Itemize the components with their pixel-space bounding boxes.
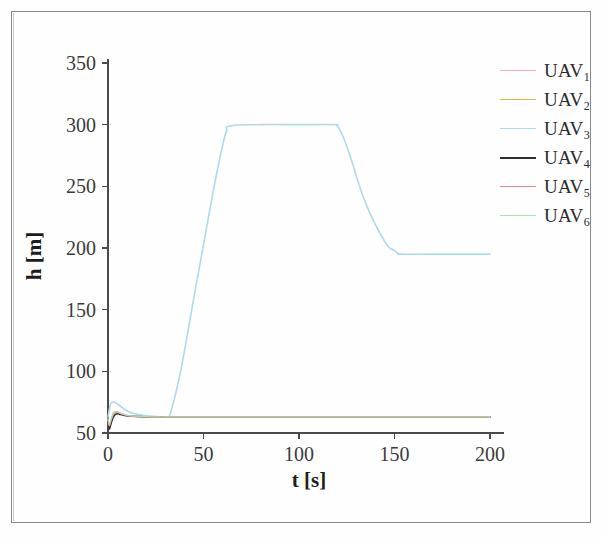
data-series-lines — [108, 125, 490, 429]
legend-item-uav-1[interactable]: UAV1 — [500, 56, 596, 85]
series-line-uav-1 — [108, 413, 490, 428]
legend-item-uav-3[interactable]: UAV3 — [500, 114, 596, 143]
legend-label-text: UAV — [544, 60, 583, 81]
legend-color-swatch — [500, 186, 536, 187]
legend-label-text: UAV — [544, 205, 583, 226]
y-tick-label: 200 — [66, 237, 96, 260]
y-tick-label: 300 — [66, 113, 96, 136]
x-axis-title: t [s] — [292, 468, 326, 493]
legend-label-text: UAV — [544, 147, 583, 168]
legend-item-label: UAV5 — [544, 176, 590, 198]
legend-color-swatch — [500, 215, 536, 216]
x-tick-label: 50 — [194, 443, 214, 466]
legend-label-subscript: 2 — [584, 99, 590, 113]
x-tick-label: 100 — [284, 443, 314, 466]
legend-label-text: UAV — [544, 89, 583, 110]
x-tick-label: 0 — [103, 443, 113, 466]
altitude-vs-time-chart: 50100150200250300350050100150200 t [s] h… — [0, 0, 602, 539]
axis-ticks — [102, 63, 490, 439]
y-tick-label: 50 — [76, 422, 96, 445]
series-line-uav-4 — [108, 414, 490, 429]
x-tick-label: 150 — [380, 443, 410, 466]
legend-item-label: UAV4 — [544, 147, 590, 169]
legend-item-uav-5[interactable]: UAV5 — [500, 172, 596, 201]
legend-item-label: UAV2 — [544, 89, 590, 111]
series-line-uav-2 — [108, 413, 490, 427]
y-tick-label: 350 — [66, 52, 96, 75]
legend-item-label: UAV3 — [544, 118, 590, 140]
legend-item-uav-2[interactable]: UAV2 — [500, 85, 596, 114]
legend-label-subscript: 1 — [584, 70, 590, 84]
legend-label-subscript: 5 — [584, 186, 590, 200]
scanned-page: 50100150200250300350050100150200 t [s] h… — [0, 0, 602, 539]
chart-legend: UAV1UAV2UAV3UAV4UAV5UAV6 — [500, 56, 596, 230]
legend-label-text: UAV — [544, 176, 583, 197]
y-tick-label: 150 — [66, 298, 96, 321]
legend-color-swatch — [500, 70, 536, 71]
legend-label-subscript: 4 — [584, 157, 590, 171]
y-axis-title: h [m] — [22, 232, 47, 280]
y-tick-label: 250 — [66, 175, 96, 198]
x-tick-label: 200 — [475, 443, 505, 466]
legend-item-label: UAV6 — [544, 205, 590, 227]
y-tick-label: 100 — [66, 360, 96, 383]
legend-item-label: UAV1 — [544, 60, 590, 82]
legend-item-uav-6[interactable]: UAV6 — [500, 201, 596, 230]
series-line-uav-3 — [108, 125, 490, 418]
legend-item-uav-4[interactable]: UAV4 — [500, 143, 596, 172]
legend-label-subscript: 6 — [584, 215, 590, 229]
series-line-uav-6 — [108, 412, 490, 425]
legend-color-swatch — [500, 157, 536, 159]
legend-color-swatch — [500, 128, 536, 129]
legend-label-text: UAV — [544, 118, 583, 139]
series-line-uav-5 — [108, 412, 490, 426]
axis-lines — [108, 59, 504, 433]
legend-label-subscript: 3 — [584, 128, 590, 142]
legend-color-swatch — [500, 99, 536, 100]
